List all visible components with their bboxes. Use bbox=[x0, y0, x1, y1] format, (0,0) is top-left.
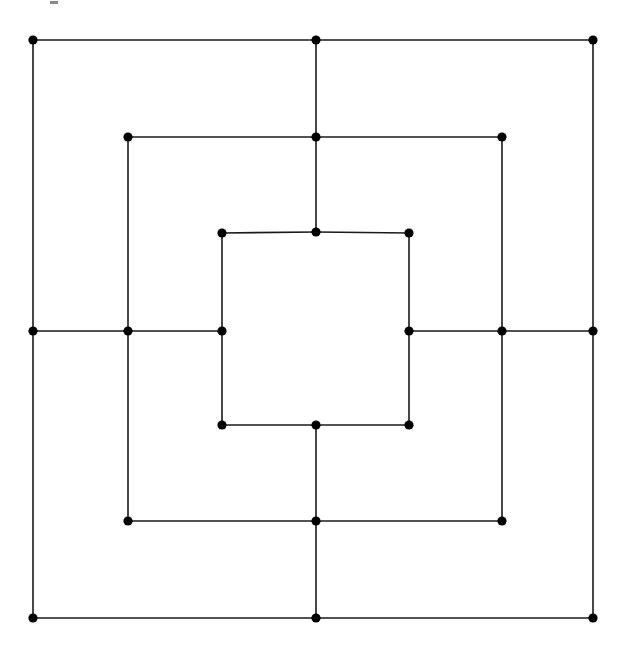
graph-vertex bbox=[588, 613, 597, 622]
graph-vertex bbox=[311, 613, 320, 622]
graph-vertex bbox=[217, 326, 226, 335]
graph-vertex bbox=[123, 516, 132, 525]
graph-vertex bbox=[588, 35, 597, 44]
graph-vertex bbox=[28, 613, 37, 622]
graph-vertex bbox=[588, 326, 597, 335]
graph-edge bbox=[222, 232, 316, 233]
graph-vertex bbox=[497, 326, 506, 335]
graph-vertex bbox=[404, 420, 413, 429]
graph-vertex bbox=[311, 516, 320, 525]
graph-vertex bbox=[28, 326, 37, 335]
graph-vertex bbox=[311, 420, 320, 429]
graph-vertex bbox=[404, 228, 413, 237]
figure-background bbox=[0, 0, 629, 657]
graph-edge bbox=[316, 232, 409, 233]
graph-vertex bbox=[311, 227, 320, 236]
graph-vertex bbox=[217, 228, 226, 237]
graph-vertex bbox=[311, 132, 320, 141]
scan-artifact bbox=[50, 1, 58, 4]
graph-vertex bbox=[311, 35, 320, 44]
graph-vertex bbox=[497, 516, 506, 525]
figure-root bbox=[0, 0, 629, 657]
graph-vertex bbox=[123, 132, 132, 141]
artifact-layer bbox=[50, 1, 58, 4]
graph-vertex bbox=[404, 326, 413, 335]
graph-vertex bbox=[123, 326, 132, 335]
graph-vertex bbox=[497, 132, 506, 141]
concentric-squares-graph bbox=[0, 0, 629, 657]
graph-vertex bbox=[217, 420, 226, 429]
graph-vertex bbox=[28, 35, 37, 44]
